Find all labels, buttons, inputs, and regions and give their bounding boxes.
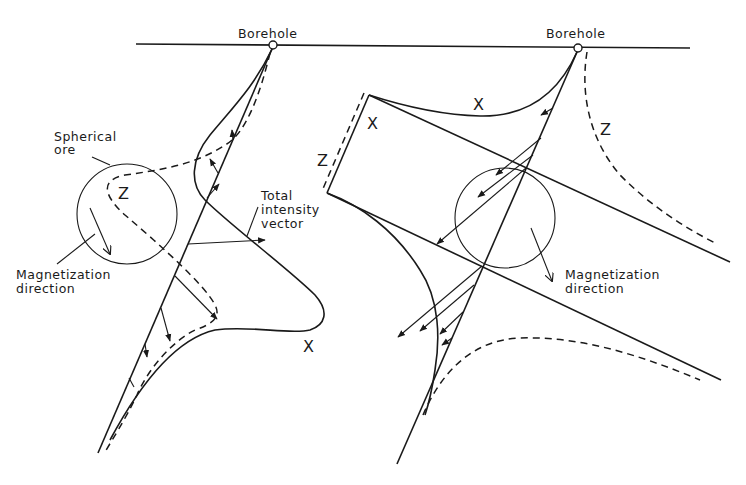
right-lower-x-curve xyxy=(327,193,438,415)
right-magnetization-arrow xyxy=(531,228,552,281)
left-magnetization-arrow xyxy=(90,208,110,254)
left-spherical-ore xyxy=(77,164,177,264)
right-z-curve-label: Z xyxy=(600,120,611,139)
left-magnetization-label-2: direction xyxy=(16,281,75,296)
right-z-curve xyxy=(585,52,715,243)
profile-x-label: X xyxy=(367,114,378,133)
left-borehole-label: Borehole xyxy=(238,26,298,41)
ore-leader-line xyxy=(92,157,110,165)
left-x-curve-label: X xyxy=(303,337,314,356)
left-vector-1 xyxy=(232,130,233,140)
right-borehole-path xyxy=(397,52,577,464)
total-intensity-label-2: intensity xyxy=(261,202,320,217)
left-vector-8 xyxy=(129,378,134,387)
left-panel: Borehole Z Spherical ore Magnetization d… xyxy=(16,26,324,453)
right-vector-4 xyxy=(437,168,526,244)
profile-base-line xyxy=(327,95,369,193)
right-borehole-marker xyxy=(574,44,582,52)
profile-z-dashed-line xyxy=(322,93,364,191)
right-panel: Borehole X Z X Z Magnetization direction xyxy=(317,26,730,464)
left-ore-z-label: Z xyxy=(118,184,129,203)
ground-surface-line xyxy=(136,44,690,48)
right-vector-5 xyxy=(398,266,482,337)
upper-boundary-line xyxy=(369,95,730,262)
magnetization-leader-line xyxy=(57,234,95,264)
left-magnetization-label-1: Magnetization xyxy=(16,267,111,282)
right-magnetization-label-2: direction xyxy=(565,281,624,296)
left-vector-7 xyxy=(145,344,147,357)
profile-z-label: Z xyxy=(317,151,328,170)
right-vector-7 xyxy=(440,312,463,334)
left-x-curve xyxy=(110,49,324,440)
spherical-ore-label-2: ore xyxy=(54,142,76,157)
left-vector-2 xyxy=(210,159,218,173)
right-magnetization-label-1: Magnetization xyxy=(565,267,660,282)
right-vector-3 xyxy=(478,155,533,197)
vector-leader-line xyxy=(247,207,258,236)
right-borehole-label: Borehole xyxy=(546,26,606,41)
right-x-curve-label: X xyxy=(473,95,484,114)
total-intensity-label-1: Total xyxy=(260,188,293,203)
left-vector-6 xyxy=(161,308,170,341)
left-borehole-marker xyxy=(269,41,277,49)
total-intensity-label-3: vector xyxy=(261,216,304,231)
left-borehole-path xyxy=(98,49,272,453)
lower-boundary-line xyxy=(327,193,721,380)
borehole-magnetic-diagram: Borehole Z Spherical ore Magnetization d… xyxy=(0,0,746,485)
